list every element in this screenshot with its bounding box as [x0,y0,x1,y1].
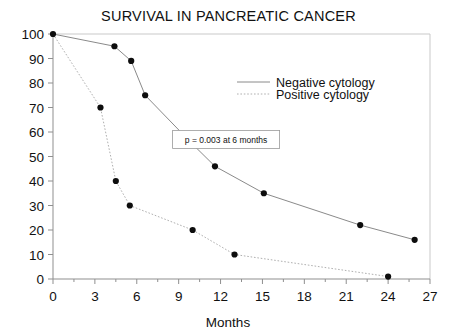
data-point-marker [142,92,148,98]
chart-legend: Negative cytologyPositive cytology [237,76,375,102]
data-point-marker [231,251,237,257]
x-tick-label: 21 [339,289,354,304]
y-tick-label: 30 [29,199,44,214]
data-point-marker [111,43,117,49]
legend-label: Positive cytology [276,88,370,102]
chart-annotations: p = 0.003 at 6 months [173,130,280,148]
data-point-marker [50,31,56,37]
data-point-marker [412,237,418,243]
x-tick-label: 27 [422,289,437,304]
y-tick-label: 90 [29,52,44,67]
x-axis-title: Months [206,315,251,330]
survival-chart-figure: SURVIVAL IN PANCREATIC CANCER 0102030405… [0,0,457,336]
x-tick-label: 12 [213,289,228,304]
x-tick-label: 15 [255,289,270,304]
y-tick-label: 100 [21,27,44,42]
x-tick-label: 9 [175,289,183,304]
data-point-marker [97,104,103,110]
data-point-marker [190,227,196,233]
data-point-marker [127,202,133,208]
data-point-markers [50,31,418,280]
x-tick-label: 3 [91,289,99,304]
data-series [53,34,415,277]
y-tick-label: 20 [29,223,44,238]
x-tick-label: 0 [49,289,57,304]
axis-tick-labels: 01020304050607080901000369121518212427 [21,27,437,304]
y-tick-label: 50 [29,150,44,165]
data-point-marker [212,163,218,169]
data-point-marker [357,222,363,228]
plot-area: 01020304050607080901000369121518212427 N… [0,0,457,336]
y-tick-label: 60 [29,125,44,140]
y-tick-label: 10 [29,248,44,263]
y-tick-label: 0 [36,272,44,287]
y-tick-label: 70 [29,101,44,116]
axis-ticks [48,34,430,284]
x-tick-label: 24 [381,289,397,304]
data-point-marker [385,273,391,279]
plot-frame [53,34,430,279]
data-point-marker [261,190,267,196]
annotation-text: p = 0.003 at 6 months [185,135,267,145]
data-point-marker [128,58,134,64]
x-tick-label: 6 [133,289,141,304]
y-tick-label: 80 [29,76,44,91]
data-point-marker [113,178,119,184]
y-tick-label: 40 [29,174,44,189]
x-tick-label: 18 [297,289,312,304]
series-line-positive-cytology [53,34,388,277]
